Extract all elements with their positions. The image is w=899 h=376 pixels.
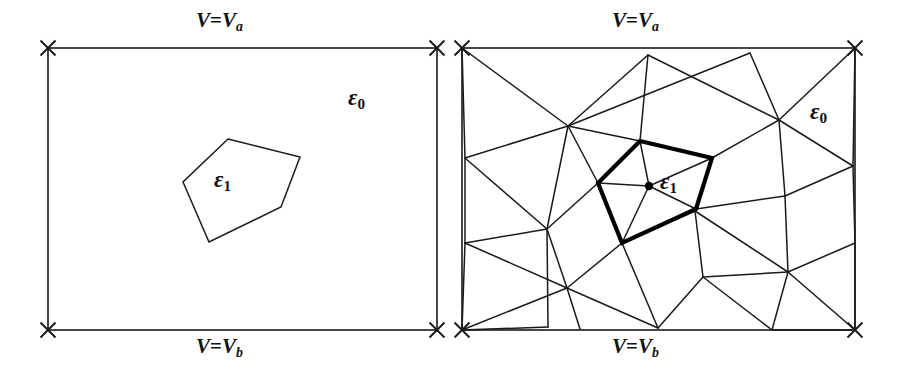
mesh-edge (648, 55, 779, 120)
epsilon-subscript: 0 (357, 95, 365, 112)
voltage-value-symbol: V (638, 8, 652, 32)
voltage-symbol: V (196, 334, 210, 358)
figure-canvas: V=Va V=Vb ε0 ε1 V=Va V=Vb ε0 ε1 (0, 0, 899, 376)
voltage-symbol: V (612, 334, 626, 358)
voltage-symbol: V (196, 8, 210, 32)
right-panel-permittivity-inner-label: ε1 (660, 170, 677, 195)
mesh-edge (465, 243, 567, 288)
mesh-edge (658, 277, 703, 328)
right-panel-permittivity-outer-label: ε0 (810, 100, 827, 125)
mesh-edge (547, 229, 548, 327)
mesh-edge (695, 211, 788, 272)
left-panel-box (48, 48, 437, 330)
mesh-edge (567, 243, 622, 288)
mesh-edge (785, 196, 788, 272)
equals-sign: = (626, 8, 638, 32)
voltage-subscript: b (236, 345, 243, 360)
epsilon-subscript: 1 (223, 177, 231, 194)
right-panel-center-node (645, 182, 653, 190)
equals-sign: = (210, 334, 222, 358)
left-panel-permittivity-outer-label: ε0 (348, 86, 365, 111)
mesh-edge (703, 272, 788, 277)
voltage-value-symbol: V (638, 334, 652, 358)
mesh-edge (703, 277, 772, 330)
mesh-edge (465, 126, 568, 158)
mesh-edge (568, 126, 598, 183)
mesh-edge (712, 120, 779, 158)
voltage-subscript: b (652, 345, 659, 360)
mesh-edge (640, 55, 648, 141)
left-panel-boundary (48, 48, 437, 330)
epsilon-subscript: 0 (819, 109, 827, 126)
right-panel-bottom-voltage-label: V=Vb (612, 336, 659, 360)
figure-svg (0, 0, 899, 376)
mesh-edge (547, 229, 567, 288)
right-panel-dielectric-outline-bold (598, 141, 712, 243)
mesh-edge (640, 141, 649, 186)
mesh-edge (465, 229, 547, 243)
mesh-edge (750, 53, 779, 120)
voltage-subscript: a (236, 19, 243, 34)
voltage-value-symbol: V (222, 8, 236, 32)
mesh-edge (567, 288, 580, 329)
voltage-subscript: a (652, 19, 659, 34)
mesh-edge (788, 243, 855, 272)
left-panel-dielectric-outline (183, 139, 300, 242)
mesh-edge (568, 126, 640, 141)
mesh-edge (568, 55, 648, 126)
mesh-edge (695, 211, 703, 277)
mesh-edge (465, 158, 547, 229)
voltage-symbol: V (612, 8, 626, 32)
dielectric-polygon-bold (598, 141, 712, 243)
mesh-edge (462, 288, 567, 330)
mesh-edge (779, 120, 785, 196)
mesh-edge (785, 166, 853, 196)
mesh-center-node (645, 182, 653, 190)
voltage-value-symbol: V (222, 334, 236, 358)
dielectric-polygon (183, 139, 300, 242)
mesh-edge (779, 120, 853, 166)
equals-sign: = (626, 334, 638, 358)
epsilon-subscript: 1 (669, 179, 677, 196)
mesh-edge (598, 183, 649, 186)
mesh-edge (788, 272, 855, 330)
mesh-edge (462, 48, 568, 126)
mesh-edge (568, 53, 750, 126)
equals-sign: = (210, 8, 222, 32)
left-panel-top-voltage-label: V=Va (196, 10, 243, 34)
mesh-edge (696, 196, 785, 209)
left-panel-permittivity-inner-label: ε1 (214, 168, 231, 193)
right-panel-top-voltage-label: V=Va (612, 10, 659, 34)
mesh-edge (772, 272, 788, 330)
left-panel-bottom-voltage-label: V=Vb (196, 336, 243, 360)
left-panel-corner-markers (41, 41, 445, 338)
right-panel-mesh-edges (462, 48, 855, 330)
